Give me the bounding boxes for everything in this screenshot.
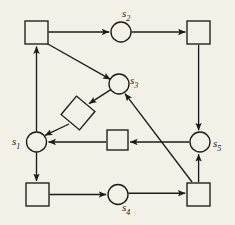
arc-s3-to-diamond xyxy=(89,90,111,104)
petri-net-diagram: s1 s2 s3 s4 s5 xyxy=(0,0,235,225)
diagram-canvas: s1 s2 s3 s4 s5 xyxy=(0,0,235,225)
place-label-s1: s1 xyxy=(12,135,20,151)
place-label-s5: s5 xyxy=(213,137,221,153)
place-s1 xyxy=(27,132,47,152)
arc-diamond-to-s1 xyxy=(45,124,69,135)
transition-middle xyxy=(107,130,128,150)
place-label-s4: s4 xyxy=(122,201,130,217)
place-s3 xyxy=(109,74,129,94)
place-label-s3: s3 xyxy=(130,74,138,90)
arc-bottomright-to-s3 xyxy=(125,94,192,182)
place-s5 xyxy=(190,132,210,152)
arc-topleft-to-s3 xyxy=(47,44,110,80)
place-label-s2: s2 xyxy=(122,7,130,23)
transition-top-right xyxy=(187,21,210,44)
place-s2 xyxy=(111,22,131,42)
transition-bottom-right xyxy=(187,183,210,206)
transition-top-left xyxy=(25,21,48,44)
transition-bottom-left xyxy=(26,183,49,206)
